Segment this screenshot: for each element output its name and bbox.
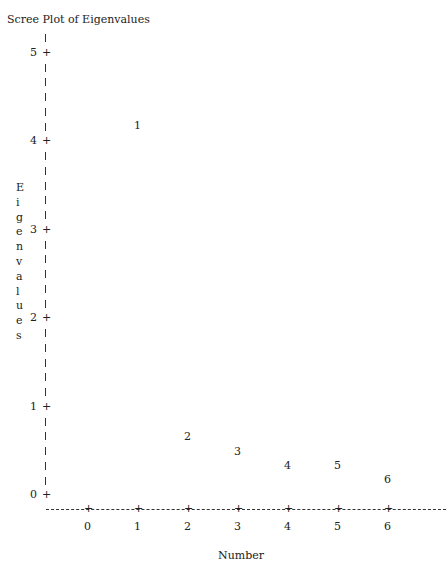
y-axis-label-char: n <box>16 241 23 253</box>
x-axis-label: Number <box>218 550 264 562</box>
x-tick-label: 6 <box>384 521 391 533</box>
x-tick-mark: + <box>384 503 393 515</box>
y-axis-segment <box>45 182 46 190</box>
y-axis-label-char: u <box>16 300 23 312</box>
y-axis-label-char: i <box>16 197 20 209</box>
y-axis-segment <box>45 462 46 470</box>
data-point: 5 <box>334 460 341 472</box>
y-tick-mark: + <box>42 224 51 236</box>
y-tick-label: 1 <box>30 401 37 413</box>
y-tick-mark: + <box>42 47 51 59</box>
x-tick-mark: + <box>184 503 193 515</box>
y-axis-label-char: a <box>16 271 23 283</box>
y-axis-label-char: E <box>16 182 24 194</box>
y-axis-segment <box>45 123 46 131</box>
y-axis-label-char: e <box>16 226 23 238</box>
data-point: 6 <box>384 474 391 486</box>
y-tick-mark: + <box>42 401 51 413</box>
y-axis-segment <box>45 300 46 308</box>
y-axis-segment <box>45 388 46 396</box>
y-axis-segment <box>45 64 46 72</box>
x-tick-mark: + <box>334 503 343 515</box>
y-axis-segment <box>45 373 46 381</box>
y-axis-segment <box>45 167 46 175</box>
y-axis-label-char: e <box>16 315 23 327</box>
y-axis-segment <box>45 78 46 86</box>
x-tick-label: 0 <box>84 521 91 533</box>
y-axis-label-char: g <box>16 212 23 224</box>
y-axis-segment <box>45 359 46 367</box>
y-tick-label: 0 <box>30 489 37 501</box>
y-tick-label: 2 <box>30 312 37 324</box>
data-point: 2 <box>184 431 191 443</box>
chart-title: Scree Plot of Eigenvalues <box>7 14 150 26</box>
x-tick-label: 2 <box>184 521 191 533</box>
x-tick-mark: + <box>284 503 293 515</box>
x-tick-label: 1 <box>134 521 141 533</box>
x-tick-mark: + <box>134 503 143 515</box>
data-point: 4 <box>284 460 291 472</box>
data-point: 3 <box>234 446 241 458</box>
y-tick-mark: + <box>42 312 51 324</box>
y-axis-segment <box>45 211 46 219</box>
y-axis-segment <box>45 432 46 440</box>
y-axis-segment <box>45 329 46 337</box>
y-tick-mark: + <box>42 489 51 501</box>
y-axis-label-char: l <box>16 286 20 298</box>
y-tick-label: 5 <box>30 47 37 59</box>
y-axis-segment <box>45 108 46 116</box>
y-axis-segment <box>45 34 46 42</box>
y-axis-segment <box>45 285 46 293</box>
y-axis-segment <box>45 270 46 278</box>
y-axis-segment <box>45 196 46 204</box>
y-axis-segment <box>45 418 46 426</box>
y-axis-segment <box>45 477 46 485</box>
data-point: 1 <box>134 120 141 132</box>
x-tick-mark: + <box>234 503 243 515</box>
x-tick-label: 3 <box>234 521 241 533</box>
x-tick-mark: + <box>84 503 93 515</box>
x-tick-label: 5 <box>334 521 341 533</box>
y-axis-segment <box>45 152 46 160</box>
y-axis-segment <box>45 241 46 249</box>
y-axis-segment <box>45 447 46 455</box>
y-axis-segment <box>45 93 46 101</box>
y-tick-label: 3 <box>30 224 37 236</box>
y-tick-mark: + <box>42 135 51 147</box>
y-axis-segment <box>45 344 46 352</box>
y-axis-label-char: s <box>16 330 22 342</box>
x-tick-label: 4 <box>284 521 291 533</box>
y-axis-segment <box>45 255 46 263</box>
y-axis-label-char: v <box>16 256 22 268</box>
y-tick-label: 4 <box>30 135 37 147</box>
